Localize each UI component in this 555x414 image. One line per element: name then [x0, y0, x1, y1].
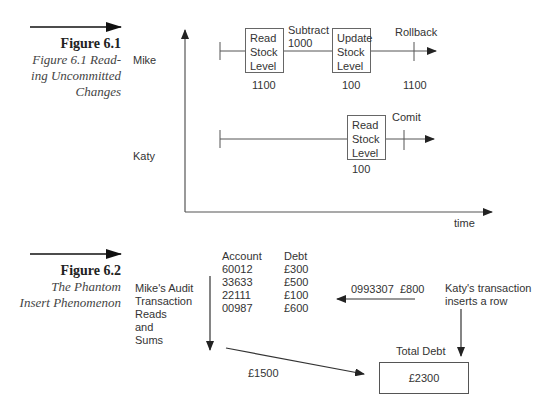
- mike-read-value: 1100: [252, 79, 276, 91]
- caption-line: Figure 6.1 Read-: [20, 52, 121, 68]
- mike-update-stock-box: Update Stock Level: [332, 28, 371, 73]
- mike-audit-label: Mike's Audit Transaction Reads and Sums: [135, 282, 193, 347]
- katy-insert-label: Katy's transaction inserts a row: [445, 282, 531, 308]
- mike-label: Mike: [133, 54, 156, 66]
- debt-cell: £600: [284, 302, 308, 315]
- box-line: Stock: [250, 45, 279, 59]
- total-debt-value: £2300: [409, 372, 440, 384]
- subtract-line: Subtract: [288, 24, 329, 37]
- audit-line: Transaction: [135, 295, 193, 308]
- sum-value: £1500: [248, 367, 279, 379]
- figure1-number: Figure 6.1: [40, 36, 121, 52]
- box-line: Level: [337, 59, 366, 73]
- commit-label: Comit: [392, 111, 421, 123]
- box-line: Stock: [352, 132, 381, 146]
- debt-cell: £500: [284, 276, 308, 289]
- subtract-label: Subtract 1000: [288, 24, 329, 50]
- katy-label: Katy: [133, 150, 155, 162]
- audit-line: and: [135, 321, 193, 334]
- box-line: Level: [250, 59, 279, 73]
- subtract-line: 1000: [288, 37, 329, 50]
- caption-line: Changes: [20, 84, 121, 100]
- katy-read-value: 100: [352, 163, 370, 175]
- katy-read-stock-box: Read Stock Level: [347, 115, 386, 160]
- debt-cell: £300: [284, 263, 308, 276]
- box-line: Read: [352, 118, 381, 132]
- box-line: Read: [250, 31, 279, 45]
- column-header: Debt: [284, 250, 307, 263]
- table-row: 60012 £300: [222, 263, 308, 276]
- total-debt-label: Total Debt: [396, 345, 446, 357]
- time-axis-label: time: [454, 217, 475, 229]
- mike-read-stock-box: Read Stock Level: [245, 28, 284, 73]
- debt-cell: £100: [284, 289, 308, 302]
- caption-line: The Phantom: [10, 279, 121, 295]
- box-line: Level: [352, 146, 381, 160]
- account-cell: 60012: [222, 263, 284, 276]
- audit-line: Reads: [135, 308, 193, 321]
- figure2-number: Figure 6.2: [40, 263, 121, 279]
- box-line: Update: [337, 31, 366, 45]
- account-cell: 22111: [222, 289, 284, 302]
- katy-line: inserts a row: [445, 295, 531, 308]
- account-table: Account Debt 60012 £300 33633 £500 22111…: [222, 250, 308, 315]
- table-header: Account Debt: [222, 250, 308, 263]
- audit-line: Mike's Audit: [135, 282, 193, 295]
- inserted-row-label: 0993307 £800: [351, 283, 424, 295]
- account-cell: 33633: [222, 276, 284, 289]
- account-cell: 00987: [222, 302, 284, 315]
- table-row: 33633 £500: [222, 276, 308, 289]
- mike-update-value: 100: [342, 79, 360, 91]
- figure1-caption: Figure 6.1 Read- ing Uncommitted Changes: [20, 52, 121, 100]
- katy-line: Katy's transaction: [445, 282, 531, 295]
- rollback-label: Rollback: [395, 26, 437, 38]
- table-row: 22111 £100: [222, 289, 308, 302]
- audit-line: Sums: [135, 334, 193, 347]
- figure2-caption: The Phantom Insert Phenomenon: [10, 279, 121, 311]
- table-row: 00987 £600: [222, 302, 308, 315]
- box-line: Stock: [337, 45, 366, 59]
- caption-line: Insert Phenomenon: [10, 295, 121, 311]
- rollback-value: 1100: [403, 79, 427, 91]
- column-header: Account: [222, 250, 284, 263]
- caption-line: ing Uncommitted: [20, 68, 121, 84]
- total-debt-box: £2300: [379, 362, 469, 394]
